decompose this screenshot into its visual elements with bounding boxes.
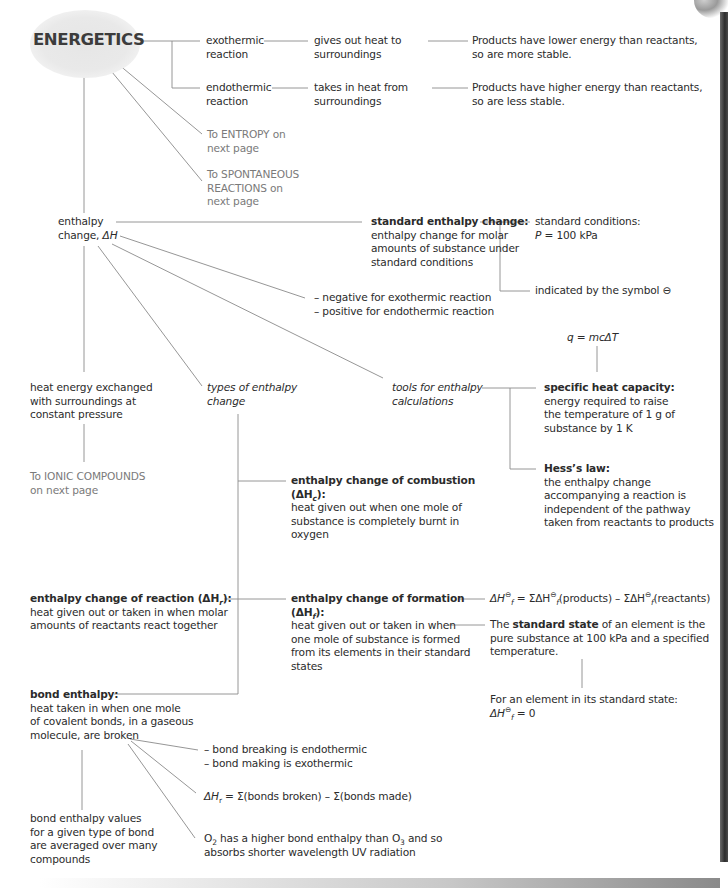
endothermic-result: Products have higher energy than reactan… [472,81,702,108]
hess-law: Hess’s law: the enthalpy change accompan… [544,462,714,530]
endothermic-label: endothermicreaction [206,81,271,108]
ozone-note: O2 has a higher bond enthalpy than O3 an… [204,832,442,859]
bond-breaking-note: – bond breaking is endothermic– bond mak… [204,743,367,770]
enthalpy-change-of-formation: enthalpy change of formation (ΔHf): heat… [291,592,470,673]
heat-formula: q = mcΔT [567,331,618,345]
standard-enthalpy-change: standard enthalpy change: enthalpy chang… [371,215,528,269]
standard-symbol-note: indicated by the symbol ⊖ [535,284,671,298]
formation-equation: ΔH⊖f = ΣΔH⊖f(products) – ΣΔH⊖f(reactants… [490,592,710,606]
link-ionic-compounds[interactable]: To IONIC COMPOUNDSon next page [30,470,145,497]
bond-enthalpy: bond enthalpy: heat taken in when one mo… [30,688,193,742]
page-title: ENERGETICS [33,33,145,47]
specific-heat-capacity: specific heat capacity: energy required … [544,381,675,435]
plimsoll-icon: ⊖ [663,284,672,296]
heat-energy-definition: heat energy exchangedwith surroundings a… [30,381,153,422]
enthalpy-change-of-combustion: enthalpy change of combustion (ΔHc): hea… [291,474,475,542]
exothermic-description: gives out heat tosurroundings [314,34,401,61]
standard-conditions: standard conditions: P = 100 kPa [535,215,640,242]
enthalpy-change-node: enthalpy change, ΔH [58,215,117,242]
sign-convention-note: – negative for exothermic reaction– posi… [314,291,494,318]
types-of-enthalpy-change: types of enthalpychange [207,381,297,408]
exothermic-result: Products have lower energy than reactant… [472,34,698,61]
element-standard-state: For an element in its standard state: ΔH… [490,693,678,720]
endothermic-description: takes in heat fromsurroundings [314,81,408,108]
enthalpy-change-of-reaction: enthalpy change of reaction (ΔHr): heat … [30,592,231,633]
link-spontaneous-reactions[interactable]: To SPONTANEOUSREACTIONS onnext page [207,168,299,209]
page-bottom-edge [40,878,720,888]
standard-state-definition: The standard state of an element is the … [490,618,709,659]
exothermic-label: exothermicreaction [206,34,264,61]
link-entropy[interactable]: To ENTROPY onnext page [207,128,286,155]
tools-for-enthalpy-calculations: tools for enthalpycalculations [392,381,483,408]
bond-enthalpy-averaged: bond enthalpy values for a given type of… [30,812,157,866]
bond-enthalpy-equation: ΔHr = Σ(bonds broken) – Σ(bonds made) [204,790,412,804]
page-binding-edge [720,12,728,862]
